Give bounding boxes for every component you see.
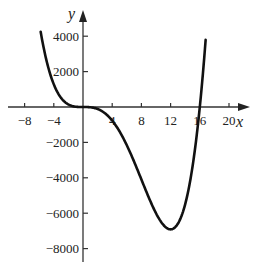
series-line bbox=[41, 32, 206, 230]
x-axis-arrow-icon bbox=[238, 103, 250, 111]
y-axis-arrow-icon bbox=[79, 10, 87, 22]
x-axis-label: x bbox=[235, 113, 243, 130]
y-tick-label: 2000 bbox=[53, 64, 79, 79]
x-tick-label: 20 bbox=[223, 113, 236, 128]
x-tick-label: −8 bbox=[18, 113, 32, 128]
y-tick-label: 4000 bbox=[53, 29, 79, 44]
x-tick-label: 12 bbox=[164, 113, 177, 128]
y-axis-label: y bbox=[66, 5, 76, 23]
y-tick-label: −2000 bbox=[46, 135, 79, 150]
y-tick-label: −6000 bbox=[46, 206, 79, 221]
y-tick-label: −8000 bbox=[46, 241, 79, 256]
y-tick-label: −4000 bbox=[46, 170, 79, 185]
x-tick-label: −4 bbox=[47, 113, 61, 128]
x-tick-label: 8 bbox=[138, 113, 145, 128]
chart: −8−44812162040002000−2000−4000−6000−8000… bbox=[0, 0, 259, 268]
